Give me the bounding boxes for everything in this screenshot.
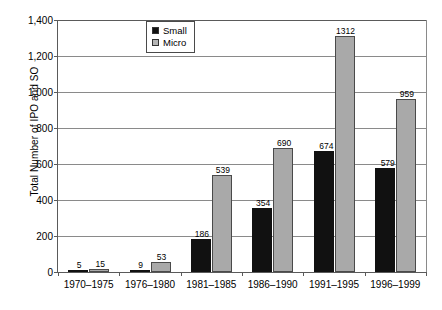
legend-swatch-micro-icon xyxy=(152,39,159,46)
y-tick-mark xyxy=(54,20,58,21)
legend-item-micro: Micro xyxy=(152,37,187,49)
y-tick-mark xyxy=(54,128,58,129)
y-tick-label: 1,400 xyxy=(28,15,53,26)
chart-legend: Small Micro xyxy=(146,21,195,53)
bar-micro[interactable]: 53 xyxy=(151,262,171,272)
y-tick-label: 600 xyxy=(36,159,53,170)
x-tick-mark xyxy=(119,272,120,276)
bar-group: 354690 xyxy=(252,20,293,272)
bar-group: 953 xyxy=(130,20,171,272)
bar-small[interactable]: 674 xyxy=(314,151,334,272)
y-tick-label: 800 xyxy=(36,123,53,134)
x-tick-label: 1976–1980 xyxy=(125,279,175,290)
x-tick-mark xyxy=(181,272,182,276)
bar-small[interactable]: 186 xyxy=(191,239,211,272)
gridline xyxy=(58,20,426,21)
x-tick-mark xyxy=(303,272,304,276)
y-tick-mark xyxy=(54,56,58,57)
bar-micro[interactable]: 15 xyxy=(89,269,109,272)
x-tick-label: 1996–1999 xyxy=(370,279,420,290)
x-tick-mark xyxy=(58,272,59,276)
y-tick-label: 1,000 xyxy=(28,87,53,98)
bar-value-label: 15 xyxy=(90,259,110,269)
x-tick-mark xyxy=(242,272,243,276)
y-tick-mark xyxy=(54,200,58,201)
gridline xyxy=(58,236,426,237)
bar-value-label: 53 xyxy=(152,252,172,262)
bar-value-label: 5 xyxy=(69,260,89,270)
bar-value-label: 1312 xyxy=(336,26,356,36)
gridline xyxy=(58,200,426,201)
y-tick-mark xyxy=(54,164,58,165)
gridline xyxy=(58,92,426,93)
x-tick-label: 1986–1990 xyxy=(248,279,298,290)
bar-group: 515 xyxy=(68,20,109,272)
bar-value-label: 579 xyxy=(367,158,395,168)
gridline xyxy=(58,128,426,129)
bar-small[interactable]: 354 xyxy=(252,208,272,272)
bar-group: 579959 xyxy=(375,20,416,272)
x-tick-label: 1991–1995 xyxy=(309,279,359,290)
bar-chart: Total Number of IPO and SO 0200400600800… xyxy=(0,0,442,310)
bar-value-label: 354 xyxy=(253,198,273,208)
legend-item-small: Small xyxy=(152,25,187,37)
bar-group: 6741312 xyxy=(314,20,355,272)
y-tick-label: 200 xyxy=(36,231,53,242)
legend-swatch-small-icon xyxy=(152,27,159,34)
y-tick-label: 400 xyxy=(36,195,53,206)
bar-small[interactable]: 9 xyxy=(130,270,150,272)
bar-value-label: 9 xyxy=(131,260,151,270)
bar-value-label: 690 xyxy=(274,138,294,148)
y-tick-mark xyxy=(54,92,58,93)
bar-value-label: 959 xyxy=(397,89,417,99)
plot-area: 02004006008001,0001,2001,400 51595318653… xyxy=(57,20,426,273)
y-tick-label: 0 xyxy=(47,267,53,278)
plot-right-edge xyxy=(426,20,427,272)
bar-value-label: 186 xyxy=(192,229,212,239)
bar-value-label: 674 xyxy=(306,141,334,151)
bar-micro[interactable]: 959 xyxy=(396,99,416,272)
gridline xyxy=(58,56,426,57)
x-tick-mark xyxy=(426,272,427,276)
bar-micro[interactable]: 1312 xyxy=(335,36,355,272)
legend-label-micro: Micro xyxy=(163,37,186,49)
legend-label-small: Small xyxy=(163,25,187,37)
bar-micro[interactable]: 690 xyxy=(273,148,293,272)
y-tick-mark xyxy=(54,236,58,237)
y-tick-label: 1,200 xyxy=(28,51,53,62)
bar-micro[interactable]: 539 xyxy=(212,175,232,272)
x-tick-mark xyxy=(365,272,366,276)
x-tick-label: 1981–1985 xyxy=(186,279,236,290)
bar-small[interactable]: 579 xyxy=(375,168,395,272)
bar-value-label: 539 xyxy=(213,165,233,175)
x-tick-label: 1970–1975 xyxy=(64,279,114,290)
bar-small[interactable]: 5 xyxy=(68,270,88,272)
bar-group: 186539 xyxy=(191,20,232,272)
